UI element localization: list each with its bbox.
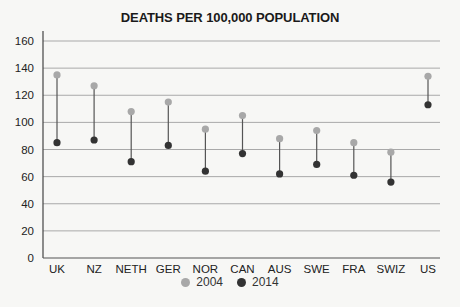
legend-item-2014: 2014	[237, 275, 279, 289]
y-tick-label: 100	[15, 116, 34, 128]
data-point-2014	[128, 158, 135, 165]
y-tick-label: 120	[15, 89, 34, 101]
data-point-2004	[91, 82, 98, 89]
x-tick-label: UK	[49, 263, 65, 275]
data-point-2004	[276, 135, 283, 142]
data-point-2014	[313, 161, 320, 168]
data-point-2004	[128, 108, 135, 115]
x-tick-label: AUS	[268, 263, 292, 275]
data-point-2014	[424, 101, 431, 108]
data-point-2004	[424, 73, 431, 80]
legend-label-2014: 2014	[252, 275, 279, 289]
legend-swatch-2004-icon	[181, 278, 190, 287]
data-point-2014	[165, 142, 172, 149]
x-tick-label: SWIZ	[377, 263, 406, 275]
x-tick-label: NOR	[193, 263, 219, 275]
x-tick-label: FRA	[342, 263, 365, 275]
y-tick-label: 160	[15, 35, 34, 47]
dumbbell-chart: 020406080100120140160UKNZNETHGERNORCANAU…	[0, 0, 460, 307]
y-tick-label: 20	[21, 225, 34, 237]
x-tick-label: NETH	[116, 263, 147, 275]
data-point-2004	[53, 71, 60, 78]
data-point-2004	[387, 149, 394, 156]
data-point-2014	[276, 170, 283, 177]
legend-item-2004: 2004	[181, 275, 223, 289]
x-tick-label: SWE	[304, 263, 331, 275]
data-point-2014	[202, 168, 209, 175]
data-point-2014	[350, 172, 357, 179]
y-tick-label: 60	[21, 171, 34, 183]
y-tick-label: 0	[28, 252, 34, 264]
legend-label-2004: 2004	[196, 275, 223, 289]
data-point-2004	[239, 112, 246, 119]
y-tick-label: 140	[15, 62, 34, 74]
data-point-2004	[350, 139, 357, 146]
x-tick-label: NZ	[86, 263, 101, 275]
data-point-2004	[313, 127, 320, 134]
legend-swatch-2014-icon	[237, 278, 246, 287]
data-point-2014	[387, 178, 394, 185]
x-tick-label: GER	[156, 263, 181, 275]
data-point-2014	[239, 150, 246, 157]
legend: 2004 2014	[0, 275, 460, 289]
x-tick-label: CAN	[230, 263, 254, 275]
data-point-2014	[91, 136, 98, 143]
x-tick-label: US	[420, 263, 436, 275]
y-tick-label: 80	[21, 144, 34, 156]
data-point-2004	[165, 98, 172, 105]
data-point-2004	[202, 126, 209, 133]
y-tick-label: 40	[21, 198, 34, 210]
data-point-2014	[53, 139, 60, 146]
